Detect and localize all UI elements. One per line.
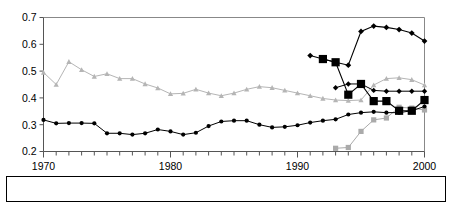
series-old-oecd-marker-dot: [181, 133, 185, 137]
series-hungary-marker-square: [333, 146, 338, 151]
series-czech-republic-marker-diamond: [422, 38, 428, 44]
series-poland-marker-square: [382, 97, 390, 105]
plot-frame: [44, 18, 425, 152]
series-korea: [41, 59, 427, 103]
series-old-oecd-marker-dot: [54, 121, 58, 125]
x-tick-label: 1990: [286, 160, 310, 172]
series-korea-marker-triangle: [371, 82, 376, 87]
series-old-oecd-marker-dot: [270, 125, 274, 129]
series-korea-marker-triangle: [66, 59, 71, 64]
x-axis: 1970198019902000: [32, 152, 437, 172]
series-hungary-marker-square: [346, 145, 351, 150]
series-mexico-marker-diamond: [422, 89, 427, 94]
x-tick-label: 2000: [413, 160, 437, 172]
y-tick-label: 0.5: [22, 65, 37, 77]
y-tick-label: 0.4: [22, 92, 37, 104]
series-old-oecd-marker-dot: [422, 104, 426, 108]
series-old-oecd-marker-dot: [219, 119, 223, 123]
series-old-oecd-marker-dot: [372, 110, 376, 114]
series-old-oecd-marker-dot: [194, 131, 198, 135]
y-tick-label: 0.6: [22, 38, 37, 50]
series-old-oecd-marker-dot: [346, 112, 350, 116]
series-old-oecd-marker-dot: [80, 121, 84, 125]
y-tick-label: 0.2: [22, 145, 37, 157]
series-mexico-marker-diamond: [333, 85, 338, 90]
series-old-oecd-marker-dot: [283, 125, 287, 129]
series-czech-republic-marker-diamond: [358, 29, 364, 35]
series-hungary-marker-square: [371, 117, 376, 122]
series-czech-republic-line: [310, 26, 424, 65]
series-old-oecd-marker-dot: [156, 127, 160, 131]
series-poland-marker-square: [344, 91, 352, 99]
series-korea-marker-triangle: [143, 81, 148, 86]
y-tick-label: 0.7: [22, 11, 37, 23]
series-old-oecd-marker-dot: [321, 119, 325, 123]
series-old-oecd-marker-dot: [359, 111, 363, 115]
series-poland-marker-square: [395, 107, 403, 115]
series-old-oecd-marker-dot: [143, 131, 147, 135]
series-korea-marker-triangle: [193, 87, 198, 92]
series-poland-marker-square: [357, 80, 365, 88]
series-hungary-marker-square: [358, 129, 363, 134]
series-czech-republic-marker-diamond: [345, 62, 351, 68]
series-old-oecd-marker-dot: [334, 117, 338, 121]
series-mexico-marker-diamond: [409, 89, 414, 94]
series-old-oecd-marker-dot: [41, 118, 45, 122]
series-czech-republic-marker-diamond: [409, 30, 415, 36]
x-tick-label: 1970: [32, 160, 56, 172]
series-hungary-marker-square: [384, 115, 389, 120]
series-old-oecd-marker-dot: [67, 121, 71, 125]
series-old-oecd-marker-dot: [257, 123, 261, 127]
series-old-oecd-marker-dot: [105, 131, 109, 135]
series-czech-republic-marker-diamond: [371, 23, 377, 29]
series-old-oecd-marker-dot: [207, 124, 211, 128]
series-old-oecd: [41, 104, 426, 136]
series-czech-republic-marker-diamond: [384, 25, 390, 31]
series-old-oecd-marker-dot: [232, 119, 236, 123]
chart-figure: 0.20.30.40.50.60.71970198019902000Czech …: [0, 0, 455, 212]
y-axis: 0.20.30.40.50.60.7: [22, 11, 44, 157]
series-poland-marker-square: [408, 107, 416, 115]
series-korea-marker-triangle: [104, 71, 109, 76]
series-old-oecd-marker-dot: [118, 131, 122, 135]
series-mexico-marker-diamond: [396, 89, 401, 94]
series-korea-marker-triangle: [422, 82, 427, 87]
chart-legend: [6, 176, 446, 202]
series-poland-marker-square: [420, 96, 428, 104]
series-mexico-marker-diamond: [384, 89, 389, 94]
x-tick-label: 1980: [159, 160, 183, 172]
series-poland-marker-square: [319, 55, 327, 63]
series-poland-marker-square: [332, 58, 340, 66]
y-tick-label: 0.3: [22, 119, 37, 131]
series-mexico-marker-diamond: [346, 81, 351, 86]
series-old-oecd-marker-dot: [295, 123, 299, 127]
series-czech-republic-marker-diamond: [396, 27, 402, 33]
series-mexico-marker-diamond: [371, 88, 376, 93]
series-korea-marker-triangle: [41, 70, 46, 75]
series-old-oecd-marker-dot: [384, 111, 388, 115]
series-old-oecd-marker-dot: [130, 133, 134, 137]
series-old-oecd-marker-dot: [245, 119, 249, 123]
series-korea-marker-triangle: [79, 67, 84, 72]
series-old-oecd-marker-dot: [168, 129, 172, 133]
series-poland-marker-square: [370, 97, 378, 105]
series-old-oecd-marker-dot: [92, 121, 96, 125]
series-old-oecd-marker-dot: [308, 120, 312, 124]
series-czech-republic-marker-diamond: [307, 53, 313, 59]
